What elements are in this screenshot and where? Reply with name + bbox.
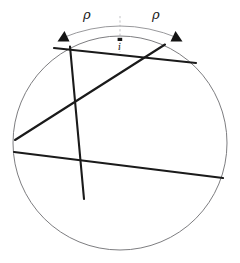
rho-label-left: ρ — [83, 8, 91, 21]
center-point-label: i — [118, 43, 121, 52]
main-circle — [13, 36, 227, 250]
arrow-right-icon — [171, 31, 183, 42]
rho-label-right: ρ — [152, 8, 160, 21]
arrow-left-icon — [58, 31, 70, 42]
chord-top — [54, 48, 196, 63]
chord-diagonal-rising — [15, 45, 165, 141]
center-marker-dot — [118, 38, 123, 41]
geometry-diagram — [0, 0, 240, 263]
figure-container: ρ ρ i — [0, 0, 240, 263]
chord-long-descending — [14, 152, 223, 178]
chord-steep-left — [70, 47, 84, 200]
